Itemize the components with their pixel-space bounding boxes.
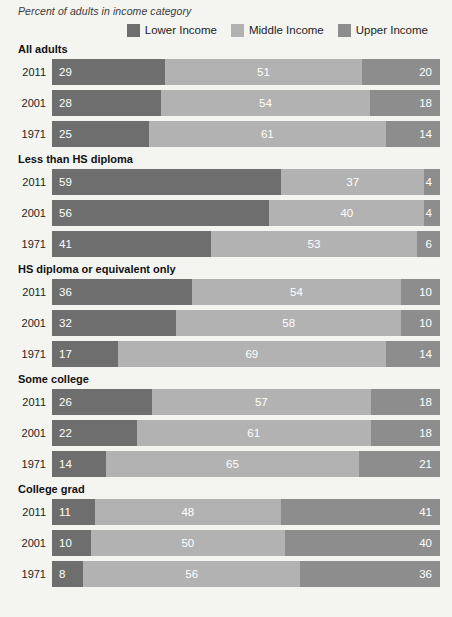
bar-segment-value: 18 [419,389,432,415]
bar-segment-upper[interactable]: 18 [371,389,440,415]
bar-segment-lower[interactable]: 32 [52,310,176,336]
bar-segment-value: 48 [181,499,194,525]
bar-segment-upper[interactable]: 21 [359,451,440,477]
bar-segment-upper[interactable]: 10 [401,279,440,305]
bar-segment-middle[interactable]: 40 [269,200,424,226]
bar-segment-upper[interactable]: 4 [424,200,440,226]
legend-item[interactable]: Middle Income [231,24,324,37]
bar-segment-upper[interactable]: 20 [362,59,440,85]
section-header: College grad [18,482,440,499]
bar-segment-lower[interactable]: 56 [52,200,269,226]
bar-segment-lower[interactable]: 36 [52,279,192,305]
bar-segment-value: 14 [419,341,432,367]
bar-segment-lower[interactable]: 29 [52,59,165,85]
bar-row: 1971176914 [18,341,440,367]
bar-segment-lower[interactable]: 25 [52,121,149,147]
bar-segment-lower[interactable]: 41 [52,231,211,257]
stacked-bar: 41536 [52,231,440,257]
bar-segment-lower[interactable]: 14 [52,451,106,477]
bar-segment-middle[interactable]: 53 [211,231,417,257]
row-year-label: 2001 [18,420,52,446]
bar-segment-lower[interactable]: 59 [52,169,281,195]
bar-segment-middle[interactable]: 69 [118,341,386,367]
bar-row: 2011114841 [18,499,440,525]
section-header: Some college [18,372,440,389]
stacked-bar: 285418 [52,90,440,116]
bar-row: 1971256114 [18,121,440,147]
bar-segment-middle[interactable]: 65 [106,451,358,477]
bar-segment-middle[interactable]: 48 [95,499,281,525]
bar-segment-middle[interactable]: 61 [149,121,386,147]
bar-segment-middle[interactable]: 54 [192,279,402,305]
bar-segment-lower[interactable]: 26 [52,389,152,415]
chart-section: All adults201129512020012854181971256114 [18,42,440,147]
stacked-bar: 226118 [52,420,440,446]
legend-item[interactable]: Upper Income [338,24,428,37]
bar-segment-value: 14 [59,451,72,477]
row-year-label: 2001 [18,310,52,336]
bar-segment-value: 36 [59,279,72,305]
bar-segment-value: 6 [426,231,432,257]
stacked-bar: 85636 [52,561,440,587]
bar-segment-middle[interactable]: 57 [152,389,371,415]
bar-segment-upper[interactable]: 18 [371,420,440,446]
row-year-label: 2011 [18,279,52,305]
bar-segment-middle[interactable]: 51 [165,59,363,85]
bar-segment-lower[interactable]: 8 [52,561,83,587]
bar-segment-lower[interactable]: 17 [52,341,118,367]
bar-row: 200156404 [18,200,440,226]
bar-segment-middle[interactable]: 61 [137,420,371,446]
bar-segment-upper[interactable]: 36 [300,561,440,587]
legend-item[interactable]: Lower Income [127,24,217,37]
bar-segment-value: 69 [245,341,258,367]
chart-section: HS diploma or equivalent only20113654102… [18,262,440,367]
bar-segment-value: 56 [59,200,72,226]
stacked-bar: 265718 [52,389,440,415]
stacked-bar: 256114 [52,121,440,147]
row-year-label: 2011 [18,59,52,85]
bar-segment-middle[interactable]: 37 [281,169,425,195]
bar-segment-middle[interactable]: 56 [83,561,300,587]
legend-swatch-middle-income [231,24,244,37]
bar-segment-value: 8 [59,561,65,587]
chart-legend: Lower IncomeMiddle IncomeUpper Income [18,20,440,40]
bar-segment-value: 10 [59,530,72,556]
stacked-bar: 114841 [52,499,440,525]
bar-segment-middle[interactable]: 50 [91,530,285,556]
bar-segment-value: 4 [426,169,432,195]
bar-segment-lower[interactable]: 28 [52,90,161,116]
row-year-label: 2011 [18,169,52,195]
bar-segment-middle[interactable]: 58 [176,310,401,336]
bar-segment-lower[interactable]: 11 [52,499,95,525]
chart-page: Percent of adults in income category Low… [0,0,452,617]
bar-segment-value: 37 [346,169,359,195]
row-year-label: 2011 [18,499,52,525]
bar-segment-value: 29 [59,59,72,85]
bar-segment-value: 10 [419,310,432,336]
bar-segment-value: 51 [257,59,270,85]
bar-segment-value: 40 [340,200,353,226]
bar-segment-upper[interactable]: 6 [417,231,440,257]
chart-sections: All adults201129512020012854181971256114… [18,42,440,587]
bar-row: 197141536 [18,231,440,257]
stacked-bar: 59374 [52,169,440,195]
stacked-bar: 56404 [52,200,440,226]
bar-segment-lower[interactable]: 22 [52,420,137,446]
bar-segment-upper[interactable]: 41 [281,499,440,525]
bar-segment-middle[interactable]: 54 [161,90,371,116]
row-year-label: 1971 [18,561,52,587]
bar-segment-upper[interactable]: 14 [386,341,440,367]
bar-segment-upper[interactable]: 14 [386,121,440,147]
bar-segment-value: 25 [59,121,72,147]
bar-segment-upper[interactable]: 18 [370,90,440,116]
stacked-bar: 105040 [52,530,440,556]
bar-row: 201159374 [18,169,440,195]
bar-segment-upper[interactable]: 10 [401,310,440,336]
bar-segment-upper[interactable]: 40 [285,530,440,556]
bar-segment-value: 40 [419,530,432,556]
bar-segment-upper[interactable]: 4 [424,169,440,195]
bar-segment-lower[interactable]: 10 [52,530,91,556]
section-header: All adults [18,42,440,59]
bar-row: 2011365410 [18,279,440,305]
row-year-label: 2001 [18,530,52,556]
